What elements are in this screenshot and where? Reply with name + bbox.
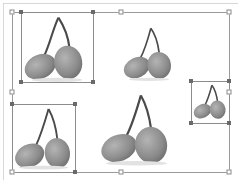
cherry-icon [100,92,173,166]
image-3-handle-bottom-right[interactable] [227,121,231,125]
group-handle-bottom-right[interactable] [227,170,232,175]
image-1-selection-box[interactable] [21,12,94,83]
image-1-handle-top-right[interactable] [91,10,95,14]
image-3-handle-top-left[interactable] [189,79,193,83]
group-handle-middle-right[interactable] [227,90,232,95]
group-handle-bottom-left[interactable] [10,170,15,175]
image-1-handle-bottom-right[interactable] [91,80,95,84]
image-4-selection-box[interactable] [12,104,76,173]
group-handle-top-center[interactable] [119,10,124,15]
cherry-icon [120,25,176,81]
cherry-image-2[interactable] [120,25,176,81]
group-handle-middle-left[interactable] [10,90,15,95]
cherry-image-5[interactable] [100,92,173,166]
image-1-handle-top-left[interactable] [19,10,23,14]
image-4-handle-top-left[interactable] [10,102,14,106]
group-handle-bottom-center[interactable] [119,170,124,175]
group-handle-top-right[interactable] [227,10,232,15]
group-handle-top-left[interactable] [10,10,15,15]
image-4-handle-top-right[interactable] [73,102,77,106]
image-3-handle-top-right[interactable] [227,79,231,83]
image-3-selection-box[interactable] [191,81,230,124]
image-3-handle-bottom-left[interactable] [189,121,193,125]
image-1-handle-bottom-left[interactable] [19,80,23,84]
image-4-handle-bottom-right[interactable] [73,170,77,174]
